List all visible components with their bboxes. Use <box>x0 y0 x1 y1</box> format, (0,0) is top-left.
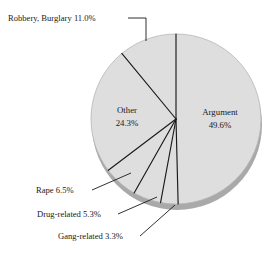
label-rape: Rape 6.5% <box>36 185 74 195</box>
leader-robbery-burglary <box>128 18 146 41</box>
label-other-value: 24.3% <box>116 118 139 128</box>
label-argument-value: 49.6% <box>209 120 232 130</box>
pie-chart-figure: Robbery, Burglary 11.0% Rape 6.5% Drug-r… <box>0 0 280 254</box>
label-drug-related: Drug-related 5.3% <box>37 209 101 219</box>
label-robbery-burglary: Robbery, Burglary 11.0% <box>8 13 96 23</box>
leader-gang-related <box>140 205 175 236</box>
pie-chart-svg: Robbery, Burglary 11.0% Rape 6.5% Drug-r… <box>0 0 280 254</box>
label-other-name: Other <box>117 105 137 115</box>
label-gang-related: Gang-related 3.3% <box>58 231 123 241</box>
label-argument-name: Argument <box>202 107 238 117</box>
